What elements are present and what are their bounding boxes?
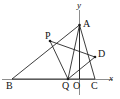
y-axis-label: y <box>77 1 81 10</box>
point-label-p: P <box>45 31 51 41</box>
segments-group <box>12 25 95 79</box>
point-label-c: C <box>91 81 98 91</box>
vertex-dot-a <box>78 24 81 27</box>
point-label-a: A <box>83 19 90 29</box>
vertices-group <box>49 24 97 81</box>
point-label-q: Q <box>62 81 69 91</box>
point-label-o: O <box>73 81 80 91</box>
point-label-b: B <box>6 81 13 91</box>
point-label-d: D <box>98 49 105 59</box>
geometry-figure: x y APDBQOC <box>0 0 120 99</box>
vertex-dot-d <box>94 56 97 59</box>
x-axis-label: x <box>109 74 113 83</box>
